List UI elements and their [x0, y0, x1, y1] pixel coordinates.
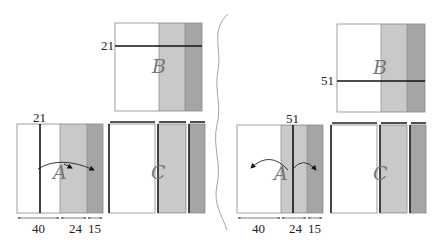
left-a-cut-label: 21: [33, 110, 46, 125]
left-block-c: C: [109, 122, 205, 213]
dimension-label: 15: [88, 221, 101, 236]
right-panel: 51 B 51 A 40 24 15: [237, 24, 426, 236]
wavy-divider: [216, 14, 228, 230]
left-panel: 21 B 21 A 40 24 15: [17, 23, 205, 236]
diagram-canvas: 21 B 21 A 40 24 15: [0, 0, 440, 247]
right-block-a: 51 A 40 24 15: [237, 111, 323, 236]
left-block-a: 21 A 40 24 15: [17, 110, 103, 236]
right-block-c: C: [331, 123, 426, 213]
right-c-label: C: [373, 162, 388, 184]
left-b-cut-label: 21: [101, 38, 114, 53]
dimension-label: 24: [289, 221, 303, 236]
right-b-label: B: [372, 56, 387, 78]
right-a-cut-label: 51: [286, 111, 299, 126]
dimension-label: 15: [308, 221, 321, 236]
left-c-label: C: [151, 161, 166, 183]
dimension-label: 40: [32, 221, 45, 236]
dimension-label: 40: [252, 221, 265, 236]
right-block-b: 51 B: [321, 24, 425, 112]
left-block-b: 21 B: [101, 23, 202, 111]
dimension-label: 24: [69, 221, 83, 236]
right-a-label: A: [272, 162, 288, 184]
right-b-cut-label: 51: [321, 73, 334, 88]
left-b-label: B: [151, 55, 166, 77]
